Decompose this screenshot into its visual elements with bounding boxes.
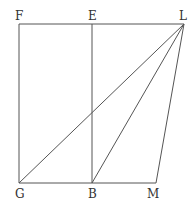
segment-GL <box>19 24 184 183</box>
label-E: E <box>88 9 97 23</box>
geometry-diagram: F E L G B M <box>0 0 194 212</box>
label-M: M <box>147 187 159 201</box>
label-F: F <box>15 9 23 23</box>
label-G: G <box>15 187 25 201</box>
label-B: B <box>88 187 97 201</box>
label-L: L <box>179 9 187 23</box>
